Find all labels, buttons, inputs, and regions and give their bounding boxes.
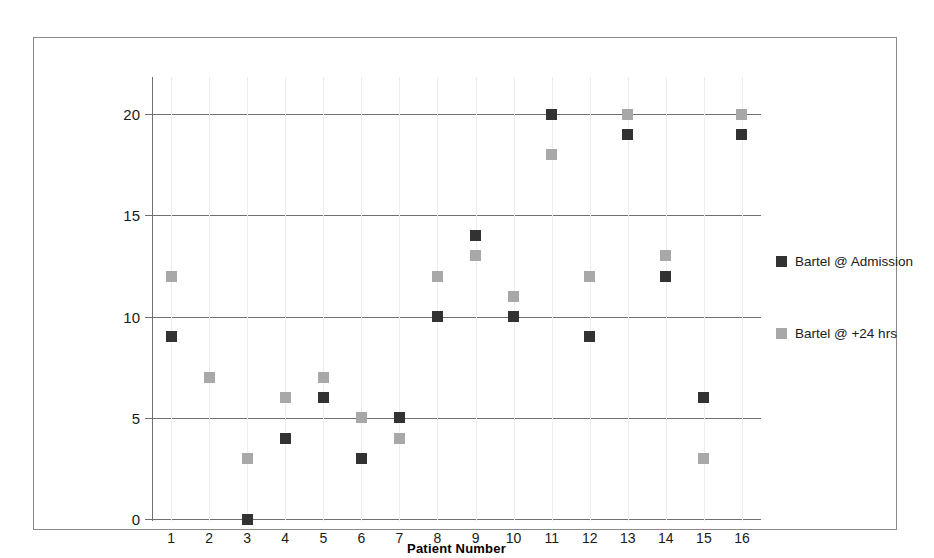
- y-axis-line: [152, 77, 153, 521]
- legend-swatch-icon: [776, 328, 787, 339]
- data-point: [356, 412, 367, 423]
- dropline-x-11: [552, 77, 553, 521]
- data-point: [622, 109, 633, 120]
- y-axis-tick-15: [145, 215, 152, 216]
- y-axis-tick-5: [145, 418, 152, 419]
- data-point: [736, 109, 747, 120]
- dropline-x-5: [323, 77, 324, 521]
- data-point: [470, 250, 481, 261]
- data-point: [166, 331, 177, 342]
- legend-swatch-icon: [776, 256, 787, 267]
- y-axis-tick-label-10: 10: [123, 308, 140, 325]
- y-axis-tick-label-5: 5: [132, 409, 140, 426]
- gridline-y-20: [152, 114, 761, 115]
- y-axis-tick-20: [145, 114, 152, 115]
- data-point: [280, 392, 291, 403]
- data-point: [204, 372, 215, 383]
- chart-frame: 05101520 12345678910111213141516 Patient…: [33, 37, 897, 530]
- legend-item-label: Bartel @ Admission: [795, 254, 913, 269]
- dropline-x-7: [399, 77, 400, 521]
- dropline-x-4: [285, 77, 286, 521]
- data-point: [622, 129, 633, 140]
- data-point: [508, 291, 519, 302]
- data-point: [698, 392, 709, 403]
- dropline-x-12: [590, 77, 591, 521]
- data-point: [698, 453, 709, 464]
- dropline-x-8: [437, 77, 438, 521]
- gridline-y-5: [152, 418, 761, 419]
- dropline-x-14: [666, 77, 667, 521]
- data-point: [242, 514, 253, 525]
- data-point: [166, 271, 177, 282]
- dropline-x-13: [628, 77, 629, 521]
- legend-item-label: Bartel @ +24 hrs: [795, 326, 897, 341]
- data-point: [280, 433, 291, 444]
- data-point: [546, 149, 557, 160]
- data-point: [318, 372, 329, 383]
- data-point: [660, 271, 671, 282]
- data-point: [470, 230, 481, 241]
- data-point: [242, 453, 253, 464]
- gridline-y-15: [152, 215, 761, 216]
- data-point: [508, 311, 519, 322]
- gridline-y-10: [152, 317, 761, 318]
- data-point: [546, 109, 557, 120]
- plot-area: 05101520: [152, 77, 761, 521]
- legend-item-2: Bartel @ +24 hrs: [776, 326, 897, 341]
- y-axis-tick-10: [145, 317, 152, 318]
- data-point: [736, 129, 747, 140]
- data-point: [318, 392, 329, 403]
- y-axis-tick-label-0: 0: [132, 511, 140, 528]
- dropline-x-1: [171, 77, 172, 521]
- data-point: [584, 271, 595, 282]
- y-axis-tick-label-20: 20: [123, 106, 140, 123]
- x-axis-title: Patient Number: [152, 541, 761, 556]
- data-point: [584, 331, 595, 342]
- y-axis-tick-label-15: 15: [123, 207, 140, 224]
- data-point: [432, 271, 443, 282]
- data-point: [432, 311, 443, 322]
- data-point: [394, 433, 405, 444]
- data-point: [394, 412, 405, 423]
- y-axis-tick-0: [145, 519, 152, 520]
- dropline-x-9: [476, 77, 477, 521]
- data-point: [356, 453, 367, 464]
- data-point: [660, 250, 671, 261]
- dropline-x-16: [742, 77, 743, 521]
- dropline-x-2: [209, 77, 210, 521]
- legend-item-1: Bartel @ Admission: [776, 254, 913, 269]
